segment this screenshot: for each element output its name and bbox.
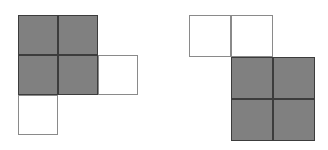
right-figure-cell-r0c1 [231, 15, 273, 57]
right-figure-cell-r0c0 [189, 15, 231, 57]
left-figure [18, 15, 138, 135]
right-figure-cell-r1c2 [273, 57, 315, 99]
figure-canvas [0, 0, 328, 150]
left-figure-cell-r2c0 [18, 95, 58, 135]
right-figure [189, 15, 315, 141]
right-figure-cell-r2c2 [273, 99, 315, 141]
left-figure-cell-r0c1 [58, 15, 98, 55]
left-figure-cell-r1c2 [98, 55, 138, 95]
right-figure-cell-r2c1 [231, 99, 273, 141]
left-figure-cell-r1c0 [18, 55, 58, 95]
left-figure-cell-r1c1 [58, 55, 98, 95]
right-figure-cell-r1c1 [231, 57, 273, 99]
left-figure-cell-r0c0 [18, 15, 58, 55]
